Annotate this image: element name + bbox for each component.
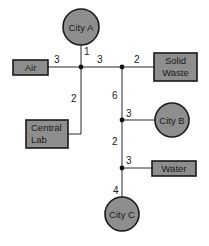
weight-air-junction: 3 — [54, 54, 60, 65]
weight-trunk-upper: 6 — [112, 90, 118, 101]
node-air: Air — [13, 60, 48, 75]
weight-trunk-lower: 4 — [113, 185, 119, 196]
node-label-line1: Central — [31, 122, 62, 133]
junction-dot — [120, 65, 125, 70]
node-city-b: City B — [155, 103, 189, 137]
weight-junction-water: 3 — [126, 155, 132, 166]
node-water: Water — [152, 161, 196, 176]
node-city-c: City C — [105, 197, 139, 231]
junction-dot — [120, 118, 125, 123]
junction-dot — [79, 65, 84, 70]
node-label: City B — [159, 115, 184, 126]
node-label: Water — [162, 163, 187, 174]
weight-city-a-junction: 1 — [84, 46, 90, 57]
node-label-line1: Solid — [165, 55, 186, 66]
node-label-line2: Lab — [31, 134, 47, 145]
junction-dot — [120, 166, 125, 171]
weight-junction-solid-waste: 2 — [134, 54, 140, 65]
weight-junction-central-lab: 2 — [71, 93, 77, 104]
node-city-a: City A — [63, 9, 99, 45]
weight-junction-junction: 3 — [97, 54, 103, 65]
weight-junction-city-b: 3 — [126, 108, 132, 119]
weight-trunk-middle: 2 — [112, 136, 118, 147]
node-label-line2: Waste — [162, 67, 189, 78]
node-label: City A — [69, 22, 94, 33]
node-central-lab: Central Lab — [26, 120, 68, 148]
network-diagram: City A Air Solid Waste Central Lab City … — [0, 0, 209, 246]
node-solid-waste: Solid Waste — [154, 53, 197, 81]
node-label: Air — [25, 62, 37, 73]
node-label: City C — [109, 209, 135, 220]
